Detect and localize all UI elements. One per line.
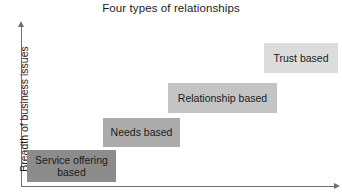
- step-box-trust-based: Trust based: [264, 43, 338, 73]
- step-box-needs-based: Needs based: [103, 118, 180, 147]
- chart-canvas: Four types of relationships Breadth of b…: [0, 0, 342, 193]
- step-box-service-offering-based: Service offeringbased: [27, 150, 116, 182]
- step-box-label: Relationship based: [178, 92, 267, 105]
- step-box-label: Service offeringbased: [35, 154, 108, 179]
- x-axis-arrow-icon: [334, 183, 340, 189]
- x-axis-line: [21, 186, 336, 187]
- y-axis-arrow-icon: [18, 21, 24, 27]
- step-box-label: Trust based: [273, 52, 328, 65]
- chart-title: Four types of relationships: [0, 1, 342, 15]
- step-box-label: Needs based: [111, 126, 173, 139]
- step-box-relationship-based: Relationship based: [168, 83, 277, 113]
